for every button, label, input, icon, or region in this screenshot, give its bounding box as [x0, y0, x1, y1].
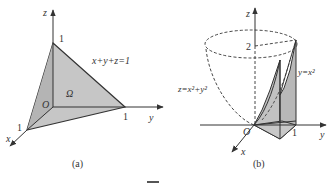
caption-b: (b): [253, 158, 265, 170]
z-tick-2: 2: [246, 41, 251, 52]
panel-a: z y x O 1 1 1 x+y+z=1 Ω (a): [5, 7, 163, 170]
plane-equation-label: x+y+z=1: [91, 55, 130, 66]
z-axis-label: z: [42, 7, 47, 18]
z-intercept-label: 1: [59, 33, 64, 44]
solid-base: [254, 121, 296, 139]
footer-caption-fragment: [147, 181, 159, 183]
caption-a: (a): [72, 158, 83, 170]
x-axis-label-b: x: [240, 146, 246, 157]
x-axis-label: x: [5, 133, 11, 144]
x-intercept-label: 1: [17, 122, 22, 133]
paraboloid-left-side: [206, 49, 254, 125]
curve-equation-label: y=x²: [297, 67, 315, 77]
figure: z y x O 1 1 1 x+y+z=1 Ω (a) z y x: [0, 0, 331, 183]
y-axis-label: y: [148, 112, 154, 123]
y-axis-label-b: y: [319, 129, 325, 140]
paraboloid-equation-label: z=x²+y²: [177, 84, 207, 94]
y-tick-1: 1: [292, 127, 297, 138]
region-omega-label: Ω: [66, 88, 73, 99]
panel-b: z y x O 2 1 z=x²+y² y=x² (b): [177, 8, 326, 170]
origin-label-b: O: [243, 126, 250, 137]
origin-label: O: [42, 99, 49, 110]
paraboloid-top-ellipse: [205, 30, 297, 58]
y-intercept-label: 1: [123, 111, 128, 122]
z-axis-label-b: z: [245, 8, 250, 19]
